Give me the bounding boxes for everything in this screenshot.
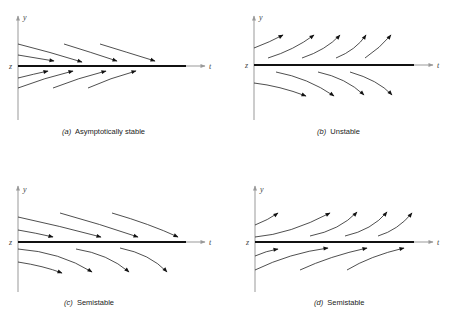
y-axis-label: y <box>259 185 264 194</box>
caption-text: Semistable <box>77 298 114 307</box>
caption-letter: (b) <box>317 127 326 136</box>
trajectories-above <box>255 212 412 237</box>
z-label: z <box>245 238 250 247</box>
trajectories-below <box>254 72 392 96</box>
caption-text: Unstable <box>330 127 360 136</box>
panel-d: y t z <box>245 185 440 292</box>
z-label: z <box>8 238 13 247</box>
trajectories-above <box>18 44 155 62</box>
t-axis-label: t <box>437 238 440 247</box>
z-label: z <box>244 61 249 70</box>
y-axis-label: y <box>22 13 27 22</box>
caption-letter: (a) <box>62 127 71 136</box>
trajectories-below <box>18 71 136 88</box>
y-axis-label: y <box>22 185 27 194</box>
caption-c: (c) Semistable <box>64 298 114 307</box>
trajectories-below <box>18 248 167 273</box>
phase-diagram-figure: y t z y t z <box>0 0 452 322</box>
t-axis-label: t <box>437 61 440 70</box>
z-label: z <box>8 62 13 71</box>
trajectories-below <box>255 248 404 270</box>
t-axis-label: t <box>209 62 212 71</box>
caption-text: Asymptotically stable <box>75 127 145 136</box>
panel-c: y t z <box>8 185 212 292</box>
caption-text: Semistable <box>327 298 364 307</box>
caption-d: (d) Semistable <box>314 298 364 307</box>
trajectories-above <box>18 213 178 237</box>
y-axis-label: y <box>258 13 263 22</box>
panel-a: y t z <box>8 13 212 120</box>
caption-letter: (c) <box>64 298 73 307</box>
caption-letter: (d) <box>314 298 323 307</box>
panel-b: y t z <box>244 13 440 120</box>
t-axis-label: t <box>209 238 212 247</box>
trajectories-above <box>254 35 391 58</box>
caption-b: (b) Unstable <box>317 127 360 136</box>
caption-a: (a) Asymptotically stable <box>62 127 145 136</box>
